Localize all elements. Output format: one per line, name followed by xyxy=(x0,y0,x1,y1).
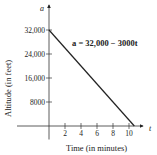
y-tick-label: 16,000 xyxy=(24,74,45,83)
x-tick-label: 4 xyxy=(79,129,83,138)
chart: 246810 800016,00024,00032,000 a t a = 32… xyxy=(0,0,157,155)
x-axis-title: Time (in minutes) xyxy=(66,143,127,153)
y-tick-label: 24,000 xyxy=(24,50,45,59)
y-axis-variable: a xyxy=(40,4,44,13)
x-tick-label: 8 xyxy=(111,129,115,138)
x-tick-label: 6 xyxy=(95,129,99,138)
y-tick-label: 32,000 xyxy=(24,26,45,35)
equation-annotation: a = 32,000 − 3000t xyxy=(72,38,138,48)
x-tick-label: 10 xyxy=(125,129,133,138)
x-axis-variable: t xyxy=(149,124,152,133)
x-tick-label: 2 xyxy=(63,129,67,138)
y-axis-title: Altitude (in feet) xyxy=(3,60,13,117)
y-tick-label: 8000 xyxy=(30,98,45,107)
